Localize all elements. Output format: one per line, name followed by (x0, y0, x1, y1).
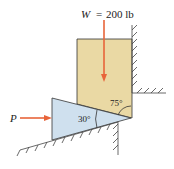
force-p-arrow (20, 115, 52, 121)
right-wall (132, 25, 137, 93)
wedge-diagram: W = 200 lb P 30° 75° (0, 0, 174, 169)
weight-value: 200 lb (106, 8, 134, 20)
wedge-angle-label: 30° (78, 114, 91, 124)
block-angle-label: 75° (110, 98, 123, 108)
lower-wall (113, 122, 118, 155)
force-p-label: P (9, 112, 17, 124)
weight-equals: = (96, 8, 102, 20)
ledge (132, 88, 166, 93)
weight-symbol: W (81, 8, 91, 20)
